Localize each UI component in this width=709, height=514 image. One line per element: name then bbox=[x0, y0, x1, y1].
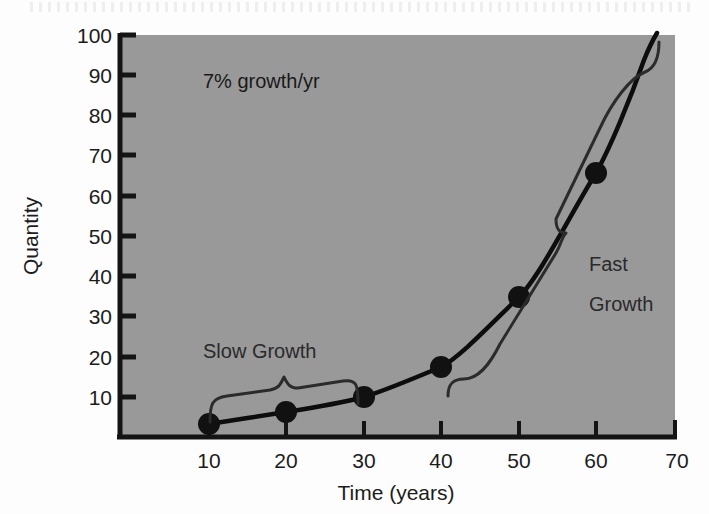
x-axis-title: Time (years) bbox=[337, 481, 454, 504]
y-tick-label-80: 80 bbox=[89, 104, 112, 127]
y-tick-label-90: 90 bbox=[89, 64, 112, 87]
plot-area-grain bbox=[120, 35, 675, 437]
x-tick-label-60: 60 bbox=[584, 449, 607, 472]
y-tick-label-40: 40 bbox=[89, 265, 112, 288]
slow-growth-label: Slow Growth bbox=[203, 340, 316, 362]
x-tick-label-10: 10 bbox=[197, 449, 220, 472]
data-point-marker bbox=[508, 286, 530, 308]
y-axis-title: Quantity bbox=[19, 196, 42, 275]
chart-svg: 100 90 80 70 60 50 40 30 20 10 bbox=[0, 0, 709, 514]
y-tick-label-20: 20 bbox=[89, 346, 112, 369]
y-axis-tick-labels: 100 90 80 70 60 50 40 30 20 10 bbox=[77, 24, 112, 409]
x-tick-label-30: 30 bbox=[352, 449, 375, 472]
x-tick-label-50: 50 bbox=[507, 449, 530, 472]
figure-page: 100 90 80 70 60 50 40 30 20 10 bbox=[0, 0, 709, 514]
fast-growth-label-line1: Fast bbox=[589, 253, 628, 275]
data-point-marker bbox=[430, 356, 452, 378]
x-axis-tick-labels: 10 20 30 40 50 60 70 bbox=[197, 449, 688, 472]
data-point-marker bbox=[275, 401, 297, 423]
fast-growth-label-line2: Growth bbox=[589, 293, 653, 315]
y-tick-label-30: 30 bbox=[89, 305, 112, 328]
x-tick-label-20: 20 bbox=[274, 449, 297, 472]
y-tick-label-70: 70 bbox=[89, 144, 112, 167]
x-tick-label-40: 40 bbox=[429, 449, 452, 472]
y-tick-label-100: 100 bbox=[77, 24, 112, 47]
data-point-marker bbox=[585, 162, 607, 184]
y-tick-label-50: 50 bbox=[89, 225, 112, 248]
y-tick-label-60: 60 bbox=[89, 185, 112, 208]
growth-rate-annotation: 7% growth/yr bbox=[203, 70, 320, 92]
x-tick-label-70: 70 bbox=[665, 449, 688, 472]
y-tick-label-10: 10 bbox=[89, 386, 112, 409]
exponential-growth-chart: 100 90 80 70 60 50 40 30 20 10 bbox=[0, 0, 709, 514]
